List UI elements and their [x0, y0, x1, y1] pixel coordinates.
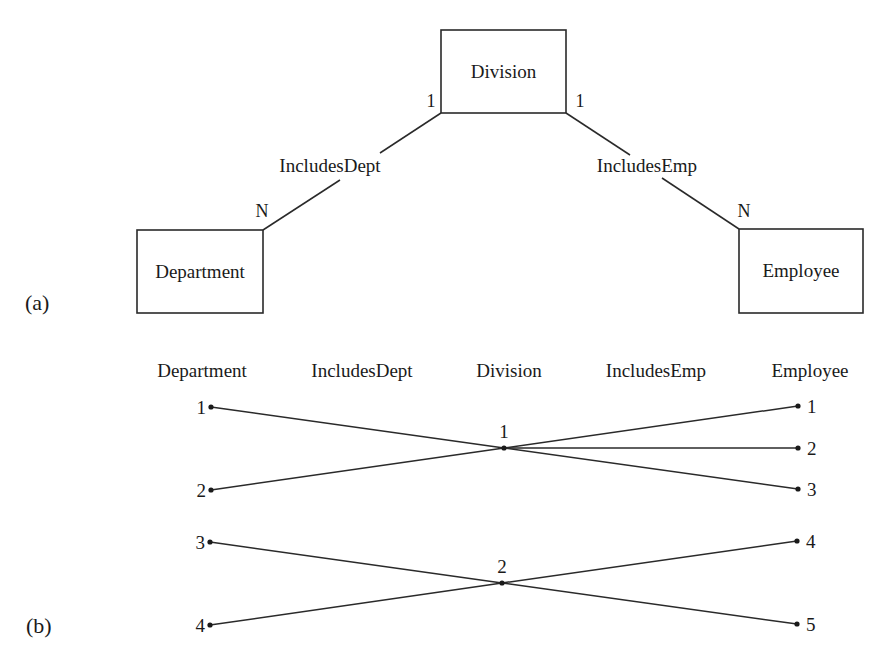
department-instance: 2: [197, 480, 214, 501]
instance-number: 1: [807, 396, 817, 417]
employee-instance: 3: [795, 479, 816, 500]
instance-number: 4: [806, 531, 816, 552]
division-instance: 2: [497, 556, 507, 586]
cardinality-label: N: [738, 201, 751, 221]
entity-label: Department: [155, 261, 245, 282]
part-a-label: (a): [25, 290, 49, 315]
includes-dept-link: [211, 448, 504, 490]
column-header: Employee: [771, 360, 848, 381]
employee-instance: 4: [794, 531, 816, 552]
includes-dept-link: [211, 407, 504, 448]
includes-emp-link: [502, 541, 797, 583]
relationship-label: IncludesDept: [279, 155, 381, 176]
instance-number: 5: [806, 614, 816, 635]
instance-dot: [794, 621, 799, 626]
instance-dot: [207, 539, 212, 544]
employee-instance: 2: [795, 438, 816, 459]
relationship-line: [380, 113, 441, 153]
instance-number: 2: [197, 480, 207, 501]
column-header: IncludesEmp: [606, 360, 706, 381]
column-header: Division: [476, 360, 542, 381]
relationship-line: [566, 113, 630, 155]
entity-employee: Employee: [739, 229, 863, 313]
includes-emp-link: [504, 406, 798, 448]
instance-dot: [795, 445, 800, 450]
entity-department: Department: [137, 230, 263, 313]
cardinality-label: 1: [427, 91, 436, 111]
er-diagram: (a)IncludesDept1NIncludesEmp1NDivisionDe…: [0, 0, 879, 671]
entity-label: Employee: [762, 260, 839, 281]
instance-dot: [501, 445, 506, 450]
division-instance: 1: [499, 421, 509, 451]
instance-number: 4: [196, 615, 206, 636]
instance-number: 2: [497, 556, 507, 577]
cardinality-label: N: [256, 201, 269, 221]
relationship-includes-emp: IncludesEmp1N: [566, 91, 751, 229]
includes-emp-link: [502, 583, 797, 624]
column-header: IncludesDept: [311, 360, 413, 381]
relationship-line: [662, 178, 739, 229]
includes-dept-link: [210, 583, 502, 625]
relationship-label: IncludesEmp: [597, 155, 697, 176]
instance-number: 3: [807, 479, 817, 500]
part-a-er-schema: (a)IncludesDept1NIncludesEmp1NDivisionDe…: [25, 30, 863, 315]
part-b-instance-diagram: (b)DepartmentIncludesDeptDivisionInclude…: [26, 360, 849, 638]
cardinality-label: 1: [576, 91, 585, 111]
instance-dot: [207, 622, 212, 627]
instance-dot: [794, 538, 799, 543]
instance-number: 2: [807, 438, 817, 459]
employee-instance: 5: [794, 614, 815, 635]
instance-dot: [795, 486, 800, 491]
employee-instance: 1: [795, 396, 816, 417]
relationship-line: [263, 180, 340, 230]
instance-dot: [208, 487, 213, 492]
instance-dot: [208, 404, 213, 409]
instance-dot: [499, 580, 504, 585]
instance-number: 1: [499, 421, 509, 442]
relationship-includes-dept: IncludesDept1N: [256, 91, 442, 230]
instance-number: 3: [196, 532, 206, 553]
includes-dept-link: [210, 542, 502, 583]
instance-dot: [795, 403, 800, 408]
column-header: Department: [157, 360, 247, 381]
entity-division: Division: [441, 30, 566, 113]
includes-emp-link: [504, 448, 798, 489]
department-instance: 4: [196, 615, 213, 636]
department-instance: 3: [196, 532, 213, 553]
entity-label: Division: [471, 61, 537, 82]
department-instance: 1: [197, 397, 214, 418]
instance-number: 1: [197, 397, 207, 418]
part-b-label: (b): [26, 613, 52, 638]
